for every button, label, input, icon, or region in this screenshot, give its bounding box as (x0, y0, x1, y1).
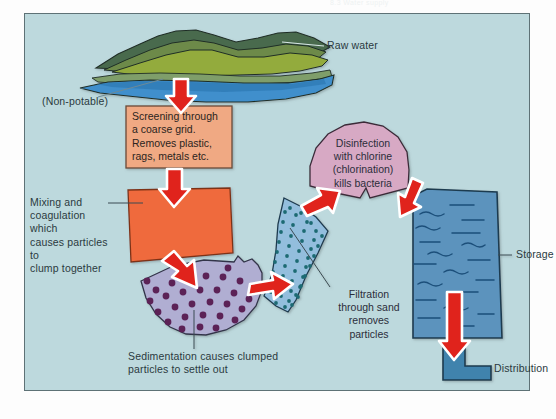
mixing-line-1: Mixing and (30, 196, 116, 209)
sedimentation-line-2: particles to settle out (128, 363, 328, 376)
sedimentation-shape-group (141, 256, 262, 349)
filtration-text-block: Filtration through sand removes particle… (330, 288, 408, 341)
landscape-raw-water-illustration (80, 30, 334, 102)
filtration-line-1: Filtration (330, 288, 408, 301)
mixing-coagulation-text-block: Mixing and coagulation which causes part… (30, 196, 116, 275)
page-root: 8.3 Water supply (0, 0, 556, 419)
mixing-line-3: causes particles to (30, 236, 116, 262)
filtration-line-2: through sand (330, 301, 408, 314)
sedimentation-shape (141, 256, 262, 335)
disinfection-line-2: with chlorine (321, 150, 405, 163)
mixing-line-4: clump together (30, 262, 116, 275)
screening-line-1: Screening through (132, 110, 232, 123)
screening-text-block: Screening through a coarse grid. Removes… (132, 110, 232, 164)
label-distribution: Distribution (494, 362, 548, 375)
screening-line-4: rags, metals etc. (132, 150, 232, 163)
sedimentation-line-1: Sedimentation causes clumped (128, 350, 328, 363)
disinfection-line-1: Disinfection (321, 137, 405, 150)
filtration-line-4: particles (330, 328, 408, 341)
filtration-line-3: removes (330, 314, 408, 327)
disinfection-line-4: kills bacteria (321, 177, 405, 190)
label-non-potable: (Non-potable) (42, 95, 108, 108)
screening-line-3: Removes plastic, (132, 137, 232, 150)
arrow-filtration-to-disinfection (301, 188, 340, 216)
label-raw-water: Raw water (327, 39, 378, 52)
disinfection-text-block: Disinfection with chlorine (chlorination… (321, 137, 405, 190)
disinfection-line-3: (chlorination) (321, 163, 405, 176)
label-storage: Storage (516, 248, 554, 261)
sedimentation-text-block: Sedimentation causes clumped particles t… (128, 350, 328, 376)
mixing-line-2: coagulation which (30, 209, 116, 235)
screening-line-2: a coarse grid. (132, 123, 232, 136)
